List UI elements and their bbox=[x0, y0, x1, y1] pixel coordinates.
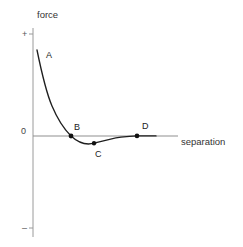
y-axis-title: force bbox=[37, 10, 58, 20]
x-axis-title: separation bbox=[181, 137, 225, 147]
data-point-c bbox=[92, 141, 96, 145]
negative-tick-label: – bbox=[22, 224, 27, 233]
positive-tick-label: + bbox=[22, 30, 27, 39]
plot-canvas bbox=[0, 0, 243, 247]
force-separation-figure: force separation + 0 – A B C D bbox=[0, 0, 243, 247]
point-label-a: A bbox=[46, 51, 52, 60]
point-label-c: C bbox=[95, 150, 102, 159]
force-curve bbox=[37, 50, 156, 144]
data-point-d bbox=[135, 134, 140, 139]
point-label-d: D bbox=[142, 122, 149, 131]
data-point-b bbox=[69, 134, 74, 139]
origin-label: 0 bbox=[21, 127, 26, 136]
point-label-b: B bbox=[74, 123, 80, 132]
